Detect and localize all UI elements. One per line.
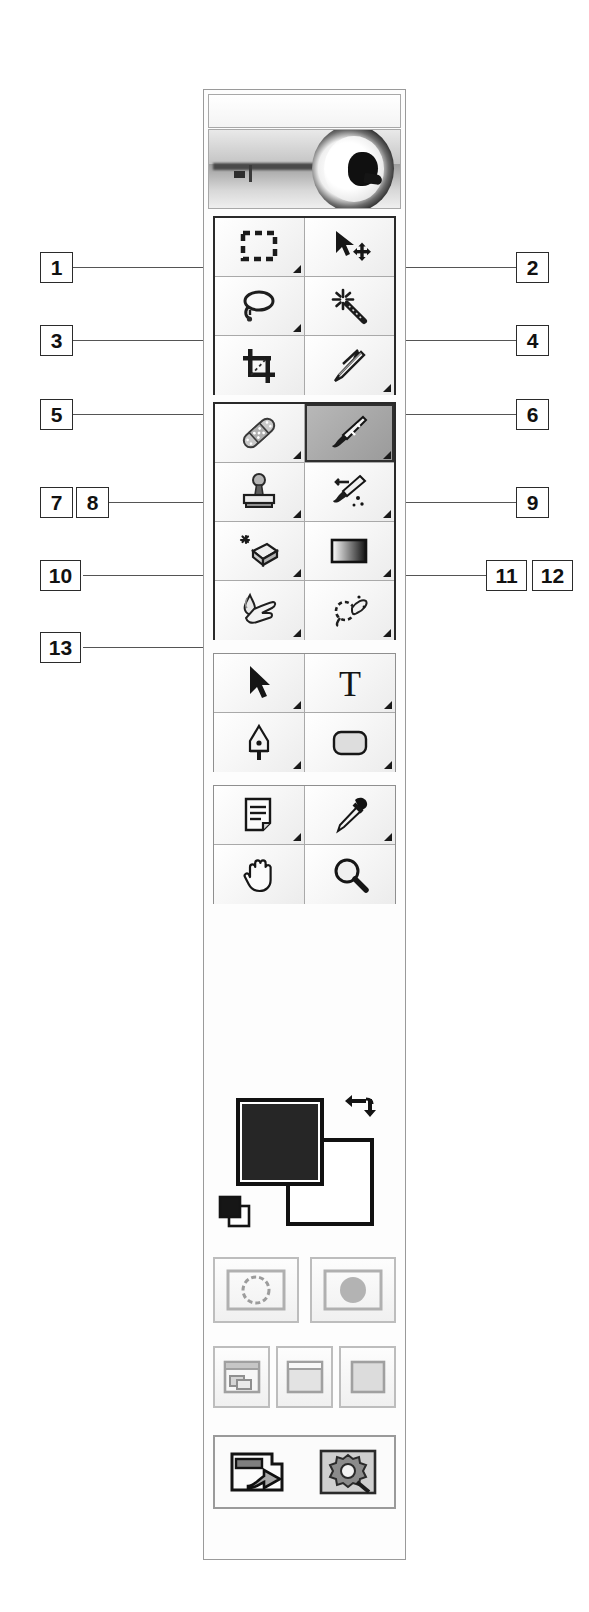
- tool-eraser[interactable]: [215, 522, 305, 581]
- standard-screen-icon: [222, 1359, 262, 1395]
- eyedropper-icon: [328, 793, 372, 837]
- swap-colors-arrow-icon[interactable]: [342, 1090, 382, 1130]
- callout-leader: [73, 340, 213, 341]
- standard-screen-mode-button[interactable]: [213, 1346, 270, 1408]
- tool-move[interactable]: [305, 218, 395, 277]
- callout-leader: [398, 414, 516, 415]
- bandage-icon: [237, 411, 281, 455]
- flyout-triangle-icon: [293, 833, 301, 841]
- imageready-icon-cell: [308, 1443, 388, 1501]
- callout-11: 11: [486, 560, 527, 591]
- gradient-icon: [327, 529, 371, 573]
- text-t-icon: T: [328, 661, 372, 705]
- tool-group-selection: [213, 216, 396, 395]
- flyout-triangle-icon: [293, 701, 301, 709]
- default-colors-icon[interactable]: [216, 1192, 258, 1234]
- flyout-triangle-icon: [293, 324, 301, 332]
- rounded-rectangle-icon: [328, 721, 372, 765]
- tool-eyedropper[interactable]: [305, 786, 396, 845]
- tool-history-brush[interactable]: [305, 463, 395, 522]
- callout-leader: [83, 575, 213, 576]
- flyout-triangle-icon: [383, 629, 391, 637]
- quick-mask-mode-button[interactable]: [310, 1257, 396, 1323]
- callout-1: 1: [40, 252, 73, 283]
- svg-text:T: T: [339, 664, 361, 704]
- waterdrop-hand-icon: [237, 589, 281, 633]
- callout-5: 5: [40, 399, 73, 430]
- marquee-icon: [237, 225, 281, 269]
- tool-path-selection[interactable]: [214, 654, 305, 713]
- tool-type[interactable]: T: [305, 654, 396, 713]
- toolbox-palette: T: [203, 89, 406, 1560]
- flyout-triangle-icon: [383, 569, 391, 577]
- tool-rectangular-marquee[interactable]: [215, 218, 305, 277]
- screen-mode-row: [213, 1346, 396, 1408]
- callout-leader: [398, 575, 486, 576]
- full-screen-with-menubar-mode-button[interactable]: [276, 1346, 333, 1408]
- callout-9: 9: [516, 487, 549, 518]
- tool-clone-stamp[interactable]: [215, 463, 305, 522]
- flyout-triangle-icon: [293, 761, 301, 769]
- jump-to-arrow-icon: [226, 1446, 298, 1498]
- flyout-triangle-icon: [293, 510, 301, 518]
- tool-group-vector-type: T: [213, 653, 396, 772]
- arrow-pointer-icon: [237, 661, 281, 705]
- callout-leader: [398, 267, 516, 268]
- hand-icon: [237, 853, 281, 897]
- lasso-icon: [237, 284, 281, 328]
- callout-leader: [398, 340, 516, 341]
- flyout-triangle-icon: [384, 833, 392, 841]
- tool-shape[interactable]: [305, 713, 396, 772]
- callout-3: 3: [40, 325, 73, 356]
- tool-gradient[interactable]: [305, 522, 395, 581]
- tool-notes[interactable]: [214, 786, 305, 845]
- flyout-triangle-icon: [384, 701, 392, 709]
- imageready-app-icon: [317, 1446, 379, 1498]
- tool-blur[interactable]: [215, 581, 305, 640]
- tool-healing-brush[interactable]: [215, 404, 305, 463]
- flyout-triangle-icon: [293, 265, 301, 273]
- tool-slice[interactable]: [305, 336, 395, 395]
- flyout-triangle-icon: [383, 384, 391, 392]
- magnifier-icon: [328, 853, 372, 897]
- flyout-triangle-icon: [293, 451, 301, 459]
- banner-post: [249, 165, 252, 182]
- slice-knife-icon: [327, 344, 371, 388]
- tool-hand[interactable]: [214, 845, 305, 904]
- tool-group-annotation-navigation: [213, 785, 396, 904]
- callout-leader: [109, 502, 213, 503]
- photoshop-toolbox-figure: 1 3 5 7 8 10 13 2 4 6 9 11 12: [0, 0, 589, 1612]
- tool-crop[interactable]: [215, 336, 305, 395]
- jump-to-arrow-cell: [222, 1443, 302, 1501]
- quick-mask-mode-icon: [322, 1268, 384, 1312]
- dodge-burn-icon: [327, 589, 371, 633]
- pen-nib-icon: [237, 721, 281, 765]
- callout-7: 7: [40, 487, 73, 518]
- crop-icon: [237, 344, 281, 388]
- tool-dodge[interactable]: [305, 581, 395, 640]
- tool-zoom[interactable]: [305, 845, 396, 904]
- callout-leader: [73, 414, 213, 415]
- callout-6: 6: [516, 399, 549, 430]
- flyout-triangle-icon: [384, 761, 392, 769]
- full-screen-mode-button[interactable]: [339, 1346, 396, 1408]
- tool-paintbrush[interactable]: [305, 404, 395, 463]
- tool-magic-wand[interactable]: [305, 277, 395, 336]
- callout-12: 12: [532, 560, 573, 591]
- tool-pen[interactable]: [214, 713, 305, 772]
- jump-to-imageready-button[interactable]: [213, 1435, 396, 1509]
- mask-mode-row: [213, 1257, 396, 1323]
- full-screen-icon: [348, 1359, 388, 1395]
- move-icon: [327, 225, 371, 269]
- note-page-icon: [237, 793, 281, 837]
- callout-13: 13: [40, 632, 81, 663]
- tool-lasso[interactable]: [215, 277, 305, 336]
- tool-group-retouch-paint: [213, 402, 396, 640]
- palette-title-bar[interactable]: [208, 94, 401, 128]
- callout-8: 8: [76, 487, 109, 518]
- eraser-icon: [237, 529, 281, 573]
- paintbrush-icon: [327, 411, 371, 455]
- callout-leader: [398, 502, 516, 503]
- standard-mode-button[interactable]: [213, 1257, 299, 1323]
- foreground-color-swatch[interactable]: [236, 1098, 324, 1186]
